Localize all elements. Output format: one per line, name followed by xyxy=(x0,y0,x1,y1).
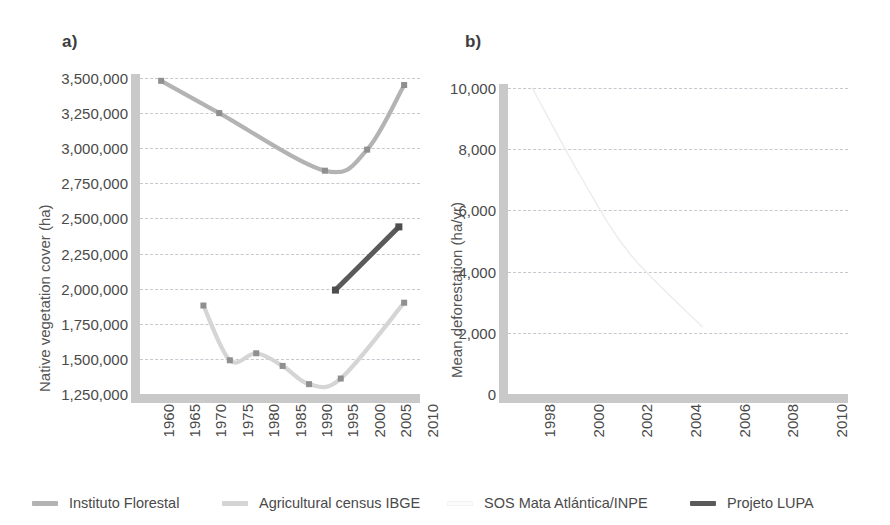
y-tick-label: 3,000,000 xyxy=(61,140,128,157)
y-tick-label: 1,250,000 xyxy=(61,386,128,403)
series-marker xyxy=(280,363,286,369)
figure-legend: Instituto Florestal Agricultural census … xyxy=(0,484,890,525)
y-tick-label: 3,500,000 xyxy=(61,70,128,87)
legend-swatch-icon xyxy=(222,501,248,506)
series-marker xyxy=(332,287,339,294)
panel-b-series-layer xyxy=(508,88,848,394)
y-tick-label: 10,000 xyxy=(450,80,496,97)
y-tick-label: 0 xyxy=(488,386,496,403)
panel-a-y-axis-spine xyxy=(131,74,140,403)
panel-b-x-axis-spine xyxy=(499,394,848,403)
legend-label: Agricultural census IBGE xyxy=(259,495,420,511)
y-tick-label: 3,250,000 xyxy=(61,105,128,122)
series-line xyxy=(335,227,398,290)
series-marker xyxy=(158,78,164,84)
panel-a-x-axis-spine xyxy=(131,394,420,403)
y-tick-label: 8,000 xyxy=(458,141,496,158)
legend-label: Projeto LUPA xyxy=(727,495,814,511)
panel-a: a) Native vegetation cover (ha) 1,250,00… xyxy=(0,0,445,480)
series-marker xyxy=(227,357,233,363)
series-marker xyxy=(395,223,402,230)
y-tick-label: 6,000 xyxy=(458,202,496,219)
legend-item-agricultural-census-ibge: Agricultural census IBGE xyxy=(222,493,420,513)
series-marker xyxy=(401,82,407,88)
y-tick-label: 2,000,000 xyxy=(61,280,128,297)
series-marker xyxy=(364,147,370,153)
panel-a-series-layer xyxy=(140,78,420,394)
y-tick-label: 2,500,000 xyxy=(61,210,128,227)
panel-b-label: b) xyxy=(465,32,481,52)
y-tick-label: 4,000 xyxy=(458,263,496,280)
series-line xyxy=(532,88,702,327)
panel-b: b) Mean deforestation (ha/yr) 02,0004,00… xyxy=(430,0,890,480)
series-line xyxy=(203,303,404,388)
y-tick-label: 1,500,000 xyxy=(61,350,128,367)
legend-swatch-icon xyxy=(32,501,58,506)
panel-a-plot-area: 1,250,0001,500,0001,750,0002,000,0002,25… xyxy=(140,78,420,394)
y-tick-label: 2,250,000 xyxy=(61,245,128,262)
panel-b-plot-area: 02,0004,0006,0008,00010,000 199820002002… xyxy=(508,88,848,394)
legend-label: Instituto Florestal xyxy=(69,495,179,511)
y-tick-label: 2,750,000 xyxy=(61,175,128,192)
figure-root: a) Native vegetation cover (ha) 1,250,00… xyxy=(0,0,890,525)
series-marker xyxy=(306,381,312,387)
legend-swatch-icon xyxy=(447,501,473,506)
legend-item-instituto-florestal: Instituto Florestal xyxy=(32,493,179,513)
y-tick-label: 1,750,000 xyxy=(61,315,128,332)
panel-b-y-axis-title: Mean deforestation (ha/yr) xyxy=(448,202,465,378)
series-marker xyxy=(322,168,328,174)
legend-swatch-icon xyxy=(690,501,716,506)
series-marker xyxy=(338,376,344,382)
series-marker xyxy=(216,110,222,116)
panel-a-label: a) xyxy=(62,32,78,52)
legend-item-sos-mata-atlantica-inpe: SOS Mata Atlántica/INPE xyxy=(447,493,648,513)
series-marker xyxy=(253,350,259,356)
series-marker xyxy=(200,303,206,309)
panel-b-y-axis-spine xyxy=(499,84,508,403)
series-marker xyxy=(401,300,407,306)
y-tick-label: 2,000 xyxy=(458,324,496,341)
panel-a-y-axis-title: Native vegetation cover (ha) xyxy=(36,204,53,392)
legend-item-projeto-lupa: Projeto LUPA xyxy=(690,493,814,513)
legend-label: SOS Mata Atlántica/INPE xyxy=(484,495,648,511)
series-line xyxy=(161,81,404,172)
